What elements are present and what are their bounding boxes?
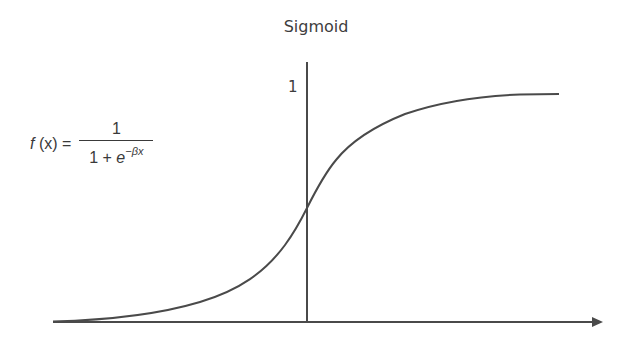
sigmoid-plot	[0, 0, 627, 344]
sigmoid-formula: f (x) = 1 1 + e−βx	[30, 120, 153, 168]
formula-fraction: 1 1 + e−βx	[79, 120, 153, 168]
x-axis-arrow-icon	[592, 317, 603, 327]
denominator-e: e	[116, 149, 125, 166]
denominator-exponent: −βx	[125, 145, 143, 157]
formula-numerator: 1	[112, 120, 121, 140]
formula-denominator: 1 + e−βx	[89, 141, 143, 168]
formula-x-equals: (x) =	[34, 135, 71, 152]
y-tick-label: 1	[288, 78, 298, 96]
formula-lhs: f (x) =	[30, 135, 71, 153]
denominator-base: 1 +	[89, 149, 116, 166]
